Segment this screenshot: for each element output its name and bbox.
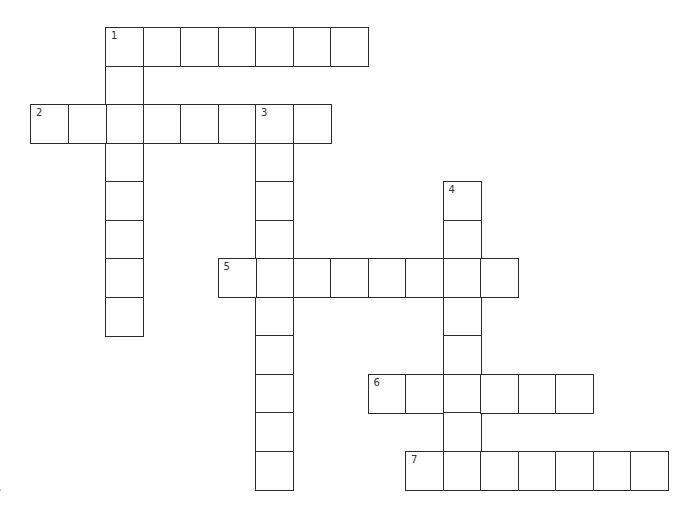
crossword-cell[interactable]: [143, 27, 182, 67]
crossword-cell[interactable]: [255, 220, 294, 260]
crossword-cell[interactable]: [255, 258, 294, 298]
crossword-cell[interactable]: 4: [443, 181, 482, 221]
crossword-cell[interactable]: 7: [405, 451, 444, 491]
crossword-cell[interactable]: [105, 220, 144, 260]
crossword-cell[interactable]: [255, 374, 294, 414]
crossword-cell[interactable]: [255, 335, 294, 375]
crossword-cell[interactable]: [255, 297, 294, 337]
clue-number: 6: [374, 378, 380, 388]
crossword-cell[interactable]: [443, 220, 482, 260]
crossword-cell[interactable]: [480, 258, 519, 298]
crossword-cell[interactable]: 6: [368, 374, 407, 414]
crossword-cell[interactable]: [293, 258, 332, 298]
crossword-cell[interactable]: [68, 104, 107, 144]
crossword-cell[interactable]: [443, 258, 482, 298]
crossword-cell[interactable]: [330, 27, 369, 67]
crossword-cell[interactable]: [105, 104, 144, 144]
crossword-cell[interactable]: [518, 451, 557, 491]
clue-number: 1: [111, 31, 117, 41]
crossword-board: 1234567: [0, 0, 690, 513]
crossword-cell[interactable]: [480, 451, 519, 491]
clue-number: 5: [224, 262, 230, 272]
crossword-cell[interactable]: [555, 451, 594, 491]
watermark-glyph: ✎: [0, 488, 2, 495]
crossword-cell[interactable]: [593, 451, 632, 491]
crossword-cell[interactable]: [368, 258, 407, 298]
crossword-cell[interactable]: 5: [218, 258, 257, 298]
clue-number: 3: [261, 108, 267, 118]
crossword-cell[interactable]: [143, 104, 182, 144]
crossword-cell[interactable]: [105, 181, 144, 221]
crossword-cell[interactable]: [330, 258, 369, 298]
clue-number: 2: [36, 108, 42, 118]
crossword-cell[interactable]: [218, 104, 257, 144]
crossword-cell[interactable]: 3: [255, 104, 294, 144]
crossword-cell[interactable]: [180, 104, 219, 144]
crossword-cell[interactable]: [255, 181, 294, 221]
crossword-cell[interactable]: [255, 27, 294, 67]
crossword-cell[interactable]: [293, 104, 332, 144]
crossword-cell[interactable]: [630, 451, 669, 491]
crossword-cell[interactable]: [405, 258, 444, 298]
clue-number: 4: [449, 185, 455, 195]
crossword-cell[interactable]: [518, 374, 557, 414]
crossword-cell[interactable]: [443, 297, 482, 337]
crossword-cell[interactable]: [105, 258, 144, 298]
crossword-cell[interactable]: [255, 143, 294, 183]
crossword-cell[interactable]: [255, 451, 294, 491]
crossword-cell[interactable]: [218, 27, 257, 67]
crossword-cell[interactable]: [293, 27, 332, 67]
crossword-cell[interactable]: [480, 374, 519, 414]
crossword-cell[interactable]: [443, 335, 482, 375]
crossword-cell[interactable]: [105, 66, 144, 106]
crossword-cell[interactable]: 2: [30, 104, 69, 144]
crossword-cell[interactable]: [443, 451, 482, 491]
crossword-cell[interactable]: 1: [105, 27, 144, 67]
crossword-cell[interactable]: [105, 143, 144, 183]
crossword-cell[interactable]: [105, 297, 144, 337]
crossword-cell[interactable]: [443, 412, 482, 452]
crossword-cell[interactable]: [405, 374, 444, 414]
crossword-cell[interactable]: [555, 374, 594, 414]
crossword-cell[interactable]: [443, 374, 482, 414]
crossword-cell[interactable]: [180, 27, 219, 67]
clue-number: 7: [411, 455, 417, 465]
crossword-cell[interactable]: [255, 412, 294, 452]
